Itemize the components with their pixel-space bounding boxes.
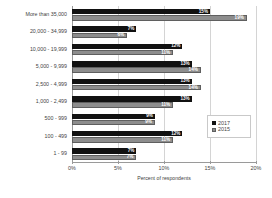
bar-2017: 7% bbox=[72, 148, 136, 153]
bar-2017: 7% bbox=[72, 26, 136, 31]
bar-value-label: 9% bbox=[146, 114, 153, 119]
bar-2015: 19% bbox=[72, 15, 247, 20]
plot-area: 15%19%7%6%12%11%13%14%13%14%13%11%9%9%12… bbox=[72, 6, 256, 163]
bar-2017: 12% bbox=[72, 44, 182, 49]
category-label: 1,000 - 2,499 bbox=[36, 99, 67, 104]
bar-group-row: 11% bbox=[72, 50, 256, 55]
bar-value-label: 9% bbox=[145, 120, 152, 125]
bar-group-row: 7% bbox=[72, 155, 256, 160]
legend-swatch-icon-2017 bbox=[212, 121, 216, 125]
bar-value-label: 7% bbox=[128, 149, 135, 154]
category-label: 500 - 999 bbox=[45, 116, 67, 121]
legend-item-2015: 2015 bbox=[212, 127, 246, 132]
gridline bbox=[256, 6, 257, 163]
x-tick-label: 0% bbox=[68, 165, 76, 171]
bar-value-label: 13% bbox=[180, 62, 189, 67]
bar-group-row: 14% bbox=[72, 67, 256, 72]
x-tick-mark bbox=[256, 161, 257, 164]
bar-value-label: 12% bbox=[171, 44, 180, 49]
bar-value-label: 7% bbox=[128, 27, 135, 32]
bar-value-label: 13% bbox=[180, 79, 189, 84]
bar-value-label: 6% bbox=[118, 33, 125, 38]
bar-2015: 9% bbox=[72, 120, 155, 125]
bar-group-row: 15% bbox=[72, 9, 256, 14]
legend-item-2017: 2017 bbox=[212, 121, 246, 126]
category-label: 10,000 - 19,999 bbox=[30, 47, 67, 52]
bar-group-row: 13% bbox=[72, 61, 256, 66]
category-label: 2,500 - 4,999 bbox=[36, 82, 67, 87]
bar-value-label: 7% bbox=[127, 155, 134, 160]
bar-2017: 9% bbox=[72, 114, 155, 119]
x-tick-mark bbox=[164, 161, 165, 164]
legend-label-2017: 2017 bbox=[218, 121, 230, 126]
category-label: 1 - 99 bbox=[53, 151, 67, 156]
category-label: 20,000 - 34,999 bbox=[30, 29, 67, 34]
bar-group-row: 6% bbox=[72, 33, 256, 38]
bar-2015: 14% bbox=[72, 67, 201, 72]
x-axis-ticks: 0%5%10%15%20% bbox=[72, 164, 256, 174]
legend-label-2015: 2015 bbox=[218, 127, 230, 132]
bar-2015: 11% bbox=[72, 50, 173, 55]
bar-2017: 13% bbox=[72, 79, 192, 84]
category-axis: More than 35,00020,000 - 34,99910,000 - … bbox=[0, 6, 70, 163]
x-tick-label: 10% bbox=[159, 165, 170, 171]
x-tick-mark bbox=[72, 161, 73, 164]
bar-value-label: 14% bbox=[189, 85, 198, 90]
x-tick-mark bbox=[118, 161, 119, 164]
bar-group-row: 19% bbox=[72, 15, 256, 20]
bar-value-label: 19% bbox=[235, 16, 244, 21]
bar-value-label: 11% bbox=[161, 138, 170, 143]
bar-group-row: 13% bbox=[72, 96, 256, 101]
category-label: 100 - 499 bbox=[45, 134, 67, 139]
bar-group-row: 7% bbox=[72, 26, 256, 31]
bar-group-row: 13% bbox=[72, 79, 256, 84]
bar-2015: 11% bbox=[72, 102, 173, 107]
x-tick-label: 20% bbox=[251, 165, 262, 171]
x-tick-mark bbox=[210, 161, 211, 164]
bar-group-row: 14% bbox=[72, 85, 256, 90]
bar-value-label: 11% bbox=[161, 103, 170, 108]
legend-swatch-icon-2015 bbox=[212, 128, 216, 132]
x-tick-label: 15% bbox=[205, 165, 216, 171]
bar-2015: 11% bbox=[72, 137, 173, 142]
bar-2015: 7% bbox=[72, 155, 136, 160]
bar-2017: 15% bbox=[72, 9, 210, 14]
bar-group-row: 7% bbox=[72, 148, 256, 153]
bar-group-row: 12% bbox=[72, 44, 256, 49]
bar-value-label: 14% bbox=[189, 68, 198, 73]
bar-2017: 13% bbox=[72, 61, 192, 66]
bar-value-label: 12% bbox=[171, 131, 180, 136]
bar-group-row: 11% bbox=[72, 102, 256, 107]
x-axis-label: Percent of respondents bbox=[72, 175, 256, 181]
bar-2015: 14% bbox=[72, 85, 201, 90]
bar-value-label: 15% bbox=[199, 9, 208, 14]
bar-value-label: 13% bbox=[180, 97, 189, 102]
bar-value-label: 11% bbox=[161, 50, 170, 55]
chart-legend: 2017 2015 bbox=[207, 115, 251, 138]
bar-2017: 12% bbox=[72, 131, 182, 136]
bar-2015: 6% bbox=[72, 33, 127, 38]
category-label: More than 35,000 bbox=[25, 12, 67, 17]
category-label: 5,000 - 9,999 bbox=[36, 64, 67, 69]
bar-chart: More than 35,00020,000 - 34,99910,000 - … bbox=[0, 0, 272, 198]
x-tick-label: 5% bbox=[114, 165, 122, 171]
bar-2017: 13% bbox=[72, 96, 192, 101]
